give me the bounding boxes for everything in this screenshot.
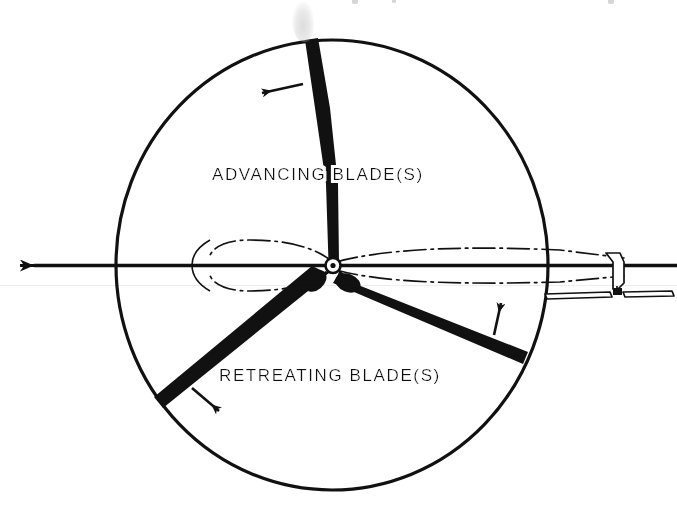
horizontal-stabilizer-right	[623, 291, 674, 297]
retreating-blade-left	[154, 266, 325, 408]
fuselage-tail-lower	[336, 270, 624, 283]
horizontal-stabilizer-left	[545, 292, 612, 299]
rotor-disc-diagram: ADVANCING BLADE(S) RETREATING BLADE(S)	[0, 0, 677, 511]
fuselage-tail-upper	[336, 248, 624, 262]
advancing-blade	[305, 38, 339, 262]
rotor-hub-center-dot	[330, 263, 335, 268]
advancing-blade-label: ADVANCING BLADE(S)	[212, 165, 424, 184]
rotation-arrow-retreating-left	[192, 388, 219, 411]
diagram-canvas: ADVANCING BLADE(S) RETREATING BLADE(S)	[0, 0, 677, 511]
rotation-arrow-retreating-right	[494, 303, 501, 335]
rotation-arrow-advancing	[262, 84, 303, 93]
tail-rotor-hub	[613, 288, 622, 295]
retreating-blade-label: RETREATING BLADE(S)	[219, 366, 441, 385]
tail-fin	[606, 253, 624, 289]
fuselage-nose-upper	[209, 240, 334, 263]
tail-assembly	[545, 253, 674, 299]
